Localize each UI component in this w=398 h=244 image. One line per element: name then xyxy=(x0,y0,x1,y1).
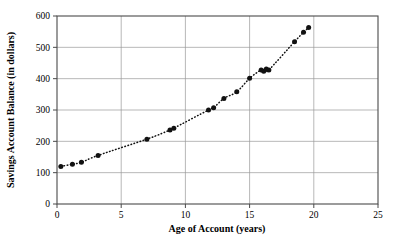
x-axis-title: Age of Account (years) xyxy=(169,223,266,235)
data-point xyxy=(247,76,252,81)
x-tick-label: 10 xyxy=(181,210,191,220)
data-point xyxy=(211,105,216,110)
plot-canvas: 0510152025 0100200300400500600 Age of Ac… xyxy=(0,0,398,244)
data-point xyxy=(221,96,226,101)
data-point xyxy=(301,30,306,35)
scatter-chart: 0510152025 0100200300400500600 Age of Ac… xyxy=(0,0,398,244)
data-point xyxy=(306,25,311,30)
data-point xyxy=(234,89,239,94)
x-axis-tick-labels: 0510152025 xyxy=(55,210,383,220)
y-tick-label: 300 xyxy=(36,105,51,115)
data-point xyxy=(79,160,84,165)
data-point xyxy=(144,137,149,142)
y-tick-label: 200 xyxy=(36,137,51,147)
data-point xyxy=(70,162,75,167)
y-tick-label: 0 xyxy=(45,199,50,209)
y-axis-tick-marks xyxy=(53,16,57,204)
y-tick-label: 400 xyxy=(36,74,51,84)
x-tick-label: 0 xyxy=(55,210,60,220)
y-tick-label: 600 xyxy=(36,11,51,21)
x-tick-label: 5 xyxy=(119,210,124,220)
x-tick-label: 20 xyxy=(309,210,319,220)
x-tick-label: 25 xyxy=(373,210,383,220)
data-point xyxy=(292,39,297,44)
data-point xyxy=(206,108,211,113)
data-point xyxy=(58,164,63,169)
data-point xyxy=(266,67,271,72)
y-axis-title: Savings Account Balance (in dollars) xyxy=(5,32,17,188)
data-point xyxy=(171,126,176,131)
y-axis-tick-labels: 0100200300400500600 xyxy=(36,11,51,209)
y-tick-label: 100 xyxy=(36,168,51,178)
x-tick-label: 15 xyxy=(245,210,255,220)
y-tick-label: 500 xyxy=(36,43,51,53)
data-point xyxy=(96,153,101,158)
x-axis-tick-marks xyxy=(57,204,378,208)
